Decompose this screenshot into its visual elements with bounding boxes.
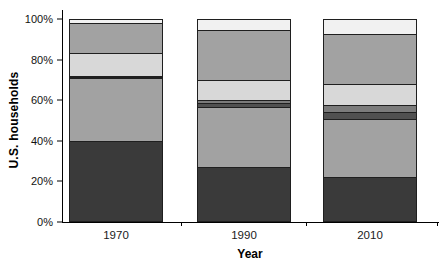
top-near-white-segment-2010 xyxy=(324,20,416,34)
bottom-darkest-segment-1990 xyxy=(198,167,290,221)
y-tick-label-20: 20% xyxy=(9,175,53,187)
y-axis-title: U.S. households xyxy=(7,50,21,190)
y-tick-mark xyxy=(57,19,63,20)
x-tick-mark xyxy=(437,222,438,226)
y-tick-label-0: 0% xyxy=(9,216,53,228)
y-tick-label-40: 40% xyxy=(9,135,53,147)
lower-medium-gray-segment-1970 xyxy=(70,78,162,140)
bar-1970 xyxy=(69,19,163,222)
stacked-bar-chart: U.S. households 0%20%40%60%80%100%197019… xyxy=(0,0,445,262)
upper-medium-gray-segment-1990 xyxy=(198,30,290,80)
y-tick-label-60: 60% xyxy=(9,94,53,106)
x-tick-mark xyxy=(181,222,182,226)
light-gray-segment-1970 xyxy=(70,53,162,76)
y-tick-mark xyxy=(57,181,63,182)
bottom-darkest-segment-1970 xyxy=(70,141,162,221)
y-tick-mark xyxy=(57,59,63,60)
y-tick-label-100: 100% xyxy=(9,13,53,25)
y-tick-mark xyxy=(57,222,63,223)
x-category-label-1970: 1970 xyxy=(69,229,163,241)
lower-medium-gray-segment-2010 xyxy=(324,119,416,177)
bottom-darkest-segment-2010 xyxy=(324,177,416,221)
light-gray-segment-2010 xyxy=(324,84,416,105)
y-tick-mark xyxy=(57,100,63,101)
x-axis-title: Year xyxy=(62,247,438,261)
x-tick-mark xyxy=(306,222,307,226)
top-near-white-segment-1990 xyxy=(198,20,290,30)
upper-medium-gray-segment-1970 xyxy=(70,23,162,53)
plot-area: 0%20%40%60%80%100%197019902010 xyxy=(62,19,439,223)
x-category-label-1990: 1990 xyxy=(197,229,291,241)
lower-medium-gray-segment-1990 xyxy=(198,107,290,166)
x-category-label-2010: 2010 xyxy=(323,229,417,241)
y-tick-mark xyxy=(57,140,63,141)
upper-medium-gray-segment-2010 xyxy=(324,34,416,84)
y-tick-label-80: 80% xyxy=(9,54,53,66)
thin-mid-gray-stripe-segment-2010 xyxy=(324,105,416,112)
bar-1990 xyxy=(197,19,291,222)
bar-2010 xyxy=(323,19,417,222)
light-gray-segment-1990 xyxy=(198,80,290,100)
